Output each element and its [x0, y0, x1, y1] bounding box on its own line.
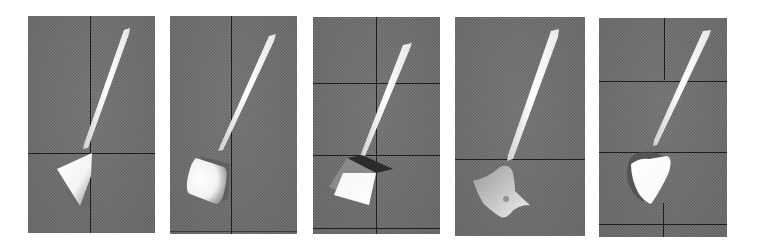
stick-with-cone-tip	[28, 16, 155, 233]
stick-with-cube-tip	[313, 17, 440, 234]
star-center-detail	[503, 196, 509, 202]
stick-shaft	[218, 34, 276, 151]
render-panel-3-cube	[313, 17, 440, 234]
render-panel-2-cylinder	[170, 16, 297, 234]
stick-shaft	[653, 30, 711, 146]
render-panel-4-star	[455, 17, 585, 236]
stick-with-rounded-cone-tip	[599, 18, 727, 237]
stick-shaft	[83, 28, 130, 149]
stick-with-star-tip	[455, 17, 585, 236]
star-tip	[473, 166, 530, 218]
stick-shaft	[360, 43, 412, 157]
render-panel-5-rounded-cone	[599, 18, 727, 237]
stick-shaft	[507, 29, 559, 161]
render-panel-1-cone	[28, 16, 155, 233]
stick-with-cylinder-tip	[170, 16, 297, 234]
